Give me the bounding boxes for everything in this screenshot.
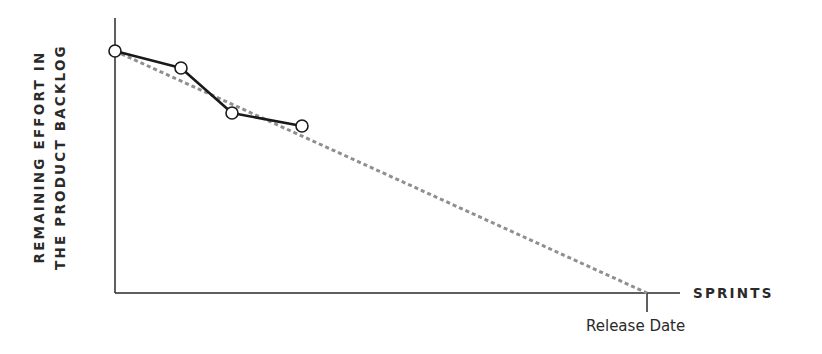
- data-point: [296, 120, 308, 132]
- trend-line: [115, 51, 647, 293]
- data-point: [226, 107, 238, 119]
- y-axis-label-line-1: REMAINING EFFORT IN: [29, 44, 50, 270]
- data-point: [109, 45, 121, 57]
- data-point: [175, 62, 187, 74]
- y-axis-label: REMAINING EFFORT IN THE PRODUCT BACKLOG: [29, 44, 71, 270]
- release-date-label: Release Date: [586, 317, 685, 335]
- x-axis-label: SPRINTS: [693, 285, 774, 301]
- y-axis-label-line-2: THE PRODUCT BACKLOG: [50, 44, 71, 270]
